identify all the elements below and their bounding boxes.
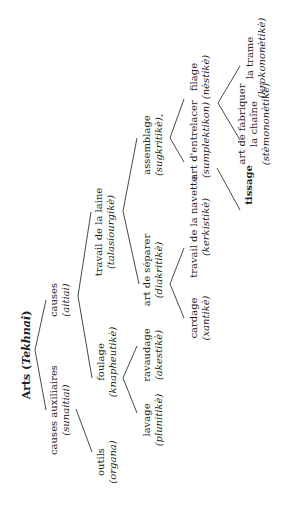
node-greek: (knapheutikè) <box>107 327 119 398</box>
edge-causes-foulage <box>78 296 92 378</box>
node-greek: (organa) <box>107 440 119 483</box>
node-greek: (sumplektikon) <box>200 100 212 180</box>
edge-travail-laine-assemblage <box>123 138 137 211</box>
node-label: filage <box>188 55 200 100</box>
edge-travail-laine-art-separer <box>123 211 139 284</box>
node-label: outils <box>95 440 107 483</box>
node-greek: (kerkistikè) <box>200 176 212 278</box>
edge-entrelacer-tissage <box>217 168 240 210</box>
node-label: cardage <box>188 295 200 340</box>
edge-assemblage-entrelacer <box>170 138 184 162</box>
node-greek: (krokononètikè) <box>256 18 268 99</box>
node-label: art d'entrelacer <box>188 100 200 180</box>
node-label: travail de la navette <box>188 176 200 278</box>
edge-arts-causes <box>35 300 46 350</box>
edge-arts-causes-auxiliaires <box>35 350 46 410</box>
node-greek: (aitiai) <box>60 283 72 317</box>
edge-foulage-ravaudage <box>123 346 137 378</box>
edge-art-separer-cardage <box>170 284 184 318</box>
node-label: art de séparer <box>141 234 153 306</box>
edge-causes-auxiliaires-outils <box>76 409 92 452</box>
edge-art-separer-navette <box>170 248 184 284</box>
node-label: ravaudage <box>141 328 153 381</box>
node-greek: (nèstikè) <box>200 55 212 100</box>
node-label: causes <box>48 283 60 317</box>
node-greek: (xantikè) <box>200 295 212 340</box>
node-greek: (diakritikè) <box>153 234 165 306</box>
node-greek: (sugkritikè), <box>153 114 165 176</box>
edge-foulage-lavage <box>123 378 137 413</box>
node-label: la trame <box>244 18 256 99</box>
node-greek: (akestikè) <box>153 328 165 381</box>
node-label: causes auxiliaires <box>48 365 60 455</box>
node-label: tissage <box>243 165 255 205</box>
node-greek: (talasiourgikè) <box>105 188 117 277</box>
diagram-canvas: Arts (Tekhnai) causes auxiliaires(sunait… <box>0 0 298 511</box>
node-label: foulage <box>95 327 107 398</box>
node-greek: Tekhnai <box>20 316 33 365</box>
node-greek: (sunaitiai) <box>60 365 72 455</box>
edge-causes-travail-laine <box>78 212 91 296</box>
node-label: travail de la laine <box>93 188 105 277</box>
node-label: Arts <box>20 374 33 400</box>
edge-assemblage-filage <box>170 99 184 138</box>
node-label: lavage <box>141 394 153 447</box>
node-greek: (plunitikè) <box>153 394 165 447</box>
node-label: assemblage <box>141 114 153 176</box>
